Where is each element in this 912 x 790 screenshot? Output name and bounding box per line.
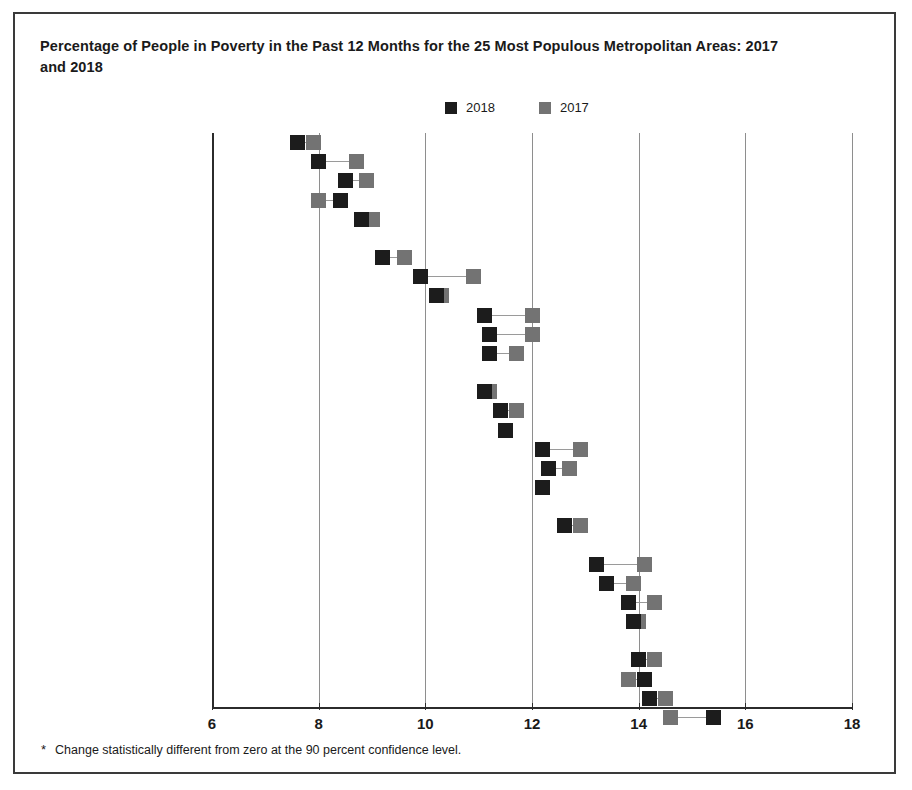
data-row <box>212 171 852 190</box>
marker-2017[interactable] <box>658 691 673 706</box>
square-marker-2017-icon <box>539 102 551 114</box>
marker-2018[interactable] <box>642 691 657 706</box>
data-row <box>212 306 852 325</box>
data-row <box>212 267 852 286</box>
marker-2017[interactable] <box>663 710 678 725</box>
marker-2018[interactable] <box>637 672 652 687</box>
marker-2017[interactable] <box>621 672 636 687</box>
data-row <box>212 708 852 727</box>
data-row <box>212 593 852 612</box>
chart-footnote: *Change statistically different from zer… <box>41 742 461 757</box>
marker-2018[interactable] <box>621 595 636 610</box>
marker-2017[interactable] <box>637 557 652 572</box>
marker-2017[interactable] <box>509 403 524 418</box>
data-row <box>212 478 852 497</box>
data-row <box>212 325 852 344</box>
marker-2017[interactable] <box>573 442 588 457</box>
legend-entry-2017: 2017 <box>539 100 589 115</box>
data-row <box>212 210 852 229</box>
legend-label: 2017 <box>560 100 589 115</box>
data-row <box>212 612 852 631</box>
plot-area: 681012141618Washington, DCDenverSan Fran… <box>212 133 852 709</box>
data-row <box>212 248 852 267</box>
marker-2017[interactable] <box>311 193 326 208</box>
data-row <box>212 191 852 210</box>
marker-2017[interactable] <box>509 346 524 361</box>
data-row <box>212 670 852 689</box>
data-row <box>212 555 852 574</box>
chart-title: Percentage of People in Poverty in the P… <box>40 36 780 78</box>
footnote-text: Change statistically different from zero… <box>55 743 461 757</box>
data-row <box>212 344 852 363</box>
footnote-star: * <box>41 742 46 757</box>
data-row <box>212 650 852 669</box>
marker-2018[interactable] <box>493 403 508 418</box>
legend-entry-2018: 2018 <box>445 100 495 115</box>
data-row <box>212 574 852 593</box>
marker-2017[interactable] <box>525 327 540 342</box>
x-tick-18 <box>852 703 853 710</box>
marker-2017[interactable] <box>466 269 481 284</box>
chart-legend: 20182017 <box>445 100 589 115</box>
marker-2018[interactable] <box>498 423 513 438</box>
marker-2018[interactable] <box>557 518 572 533</box>
data-row <box>212 401 852 420</box>
marker-2018[interactable] <box>429 288 444 303</box>
marker-2018[interactable] <box>535 442 550 457</box>
square-marker-2018-icon <box>445 102 457 114</box>
legend-label: 2018 <box>466 100 495 115</box>
marker-2018[interactable] <box>333 193 348 208</box>
marker-2018[interactable] <box>541 461 556 476</box>
marker-2018[interactable] <box>354 212 369 227</box>
marker-2018[interactable] <box>477 308 492 323</box>
marker-2018[interactable] <box>482 346 497 361</box>
marker-2017[interactable] <box>359 173 374 188</box>
data-row <box>212 152 852 171</box>
data-row <box>212 286 852 305</box>
marker-2017[interactable] <box>525 308 540 323</box>
marker-2018[interactable] <box>482 327 497 342</box>
marker-2018[interactable] <box>589 557 604 572</box>
data-row <box>212 516 852 535</box>
marker-2018[interactable] <box>311 154 326 169</box>
marker-2017[interactable] <box>647 595 662 610</box>
marker-2017[interactable] <box>349 154 364 169</box>
marker-2018[interactable] <box>338 173 353 188</box>
marker-2017[interactable] <box>562 461 577 476</box>
marker-2018[interactable] <box>535 480 550 495</box>
marker-2018[interactable] <box>631 652 646 667</box>
marker-2017[interactable] <box>573 518 588 533</box>
marker-2018[interactable] <box>375 250 390 265</box>
data-row <box>212 382 852 401</box>
data-row <box>212 133 852 152</box>
marker-2017[interactable] <box>647 652 662 667</box>
marker-2018[interactable] <box>477 384 492 399</box>
marker-2018[interactable] <box>599 576 614 591</box>
data-row <box>212 689 852 708</box>
marker-2018[interactable] <box>413 269 428 284</box>
marker-2017[interactable] <box>626 576 641 591</box>
marker-2018[interactable] <box>290 135 305 150</box>
data-row <box>212 421 852 440</box>
marker-2017[interactable] <box>306 135 321 150</box>
gridline-18 <box>852 133 853 709</box>
data-row <box>212 440 852 459</box>
marker-2018[interactable] <box>706 710 721 725</box>
marker-2018[interactable] <box>626 614 641 629</box>
marker-2017[interactable] <box>397 250 412 265</box>
data-row <box>212 459 852 478</box>
chart-figure: Percentage of People in Poverty in the P… <box>13 12 896 774</box>
